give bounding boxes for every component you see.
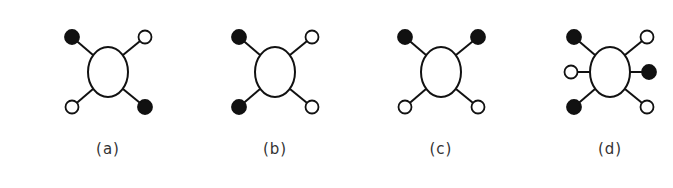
filled-circle-icon [567,30,581,44]
open-circle-icon [641,31,654,44]
central-ellipse [590,47,630,97]
filled-circle-icon [567,100,581,114]
filled-circle-icon [642,65,656,79]
panel-label: (d) [526,140,673,158]
open-circle-icon [565,66,578,79]
open-circle-icon [641,101,654,114]
molecule-diagram-d [0,0,673,188]
